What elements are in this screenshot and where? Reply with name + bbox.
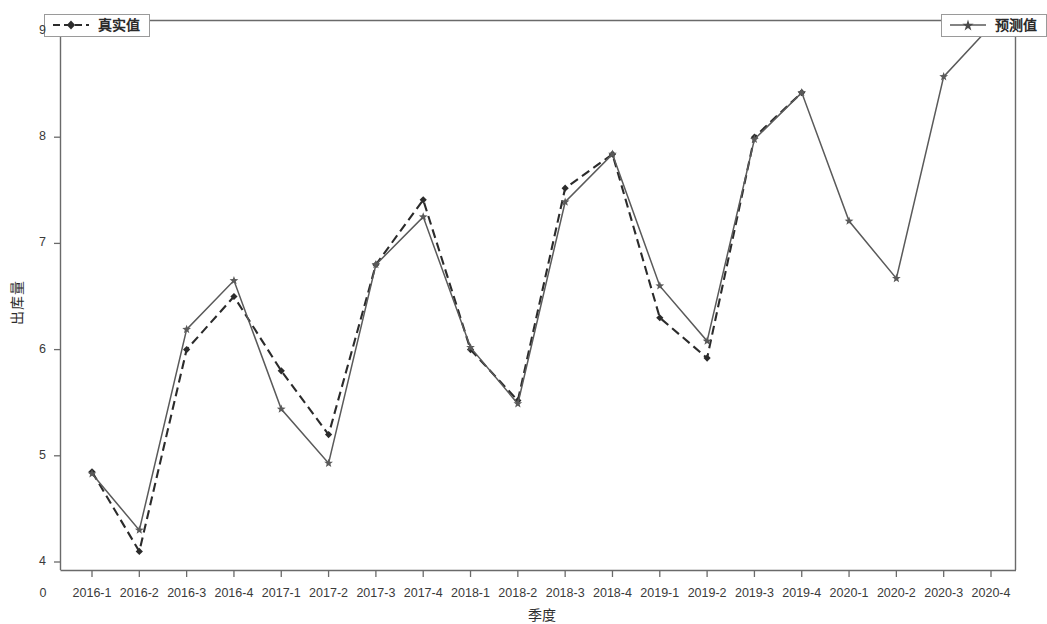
y-tick-label: 8 [14, 129, 46, 143]
x-tick-label: 2020-4 [961, 586, 1021, 600]
x-axis-title: 季度 [502, 604, 582, 624]
legend-true-value[interactable]: 真实值 [44, 14, 150, 37]
y-tick-label: 7 [14, 235, 46, 249]
origin-tick-label: 0 [30, 586, 56, 600]
legend-true-value-label: 真实值 [98, 18, 140, 32]
legend-predicted-value-label: 预测值 [995, 18, 1037, 32]
legend-dashed-sample-icon [52, 19, 90, 31]
legend-predicted-value[interactable]: 预测值 [941, 14, 1047, 37]
legend-solid-sample-icon [949, 19, 987, 31]
y-tick-label: 6 [14, 342, 46, 356]
y-tick-label: 5 [14, 448, 46, 462]
y-tick-label: 9 [14, 23, 46, 37]
y-axis-title: 出库量 [6, 272, 26, 332]
y-tick-label: 4 [14, 554, 46, 568]
